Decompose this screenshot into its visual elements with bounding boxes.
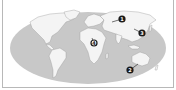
map-marker-4: 4 — [90, 39, 97, 46]
land-madagascar — [106, 53, 108, 59]
world-map: 1 2 3 4 — [0, 0, 176, 90]
svg-text:2: 2 — [128, 67, 132, 73]
map-marker-1: 1 — [118, 15, 125, 22]
map-marker-2: 2 — [126, 66, 133, 73]
svg-text:1: 1 — [120, 16, 124, 22]
map-marker-3: 3 — [138, 29, 145, 36]
svg-text:3: 3 — [140, 30, 144, 36]
svg-text:4: 4 — [92, 40, 96, 46]
